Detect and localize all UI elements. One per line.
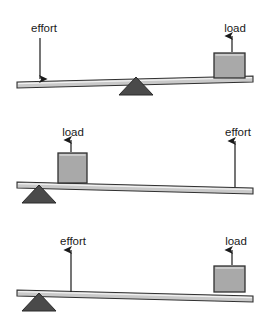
load-block (214, 266, 245, 292)
load-block-body (214, 53, 245, 78)
lever-diagram-canvas: effortloadloadefforteffortload (0, 0, 267, 331)
force-effort: effort (60, 235, 87, 292)
force-label-load: load (62, 126, 84, 138)
force-label-load: load (225, 235, 247, 247)
diagrams-group: effortloadloadefforteffortload (17, 22, 253, 311)
force-load: load (224, 22, 246, 52)
force-label-effort: effort (60, 235, 87, 247)
load-block (214, 53, 245, 78)
second-class-lever: loadeffort (17, 126, 253, 203)
force-effort: effort (31, 22, 58, 79)
force-label-load: load (224, 22, 246, 34)
force-label-effort: effort (31, 22, 58, 34)
force-load: load (225, 235, 247, 265)
force-label-effort: effort (225, 126, 252, 138)
load-block-body (58, 153, 87, 183)
first-class-lever: effortload (17, 22, 253, 95)
load-block-body (214, 266, 245, 292)
load-block (58, 153, 87, 183)
lever-diagram-figure: effortloadloadefforteffortload (0, 0, 267, 331)
force-load: load (62, 126, 84, 152)
third-class-lever: effortload (17, 235, 253, 311)
lever-beam (17, 182, 253, 194)
force-effort: effort (225, 126, 252, 187)
